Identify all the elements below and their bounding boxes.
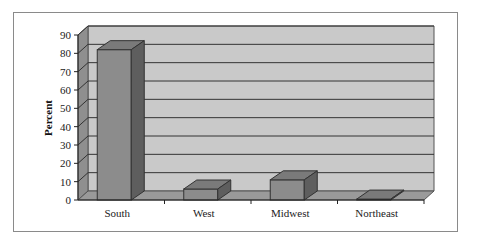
y-tick-label: 0 [66,194,72,206]
y-tick-label: 60 [60,84,72,96]
bar-south [97,41,144,200]
x-category-label: Midwest [271,207,310,219]
y-tick-label: 50 [60,102,72,114]
y-axis-label: Percent [42,100,54,136]
y-tick-label: 80 [60,47,72,59]
bar-chart: 0102030405060708090 SouthWestMidwestNort… [0,0,479,246]
y-tick-label: 70 [60,66,72,78]
x-category-label: West [193,207,215,219]
y-tick-label: 20 [60,157,72,169]
y-tick-label: 30 [60,139,72,151]
x-category-label: South [104,207,130,219]
bar-front [184,189,218,200]
y-tick-label: 10 [60,176,72,188]
x-axis-labels: SouthWestMidwestNortheast [104,207,398,219]
bar-front [97,50,131,200]
bar-front [270,180,304,200]
x-category-label: Northeast [355,207,398,219]
bar-side [131,41,144,200]
y-tick-label: 90 [60,29,72,41]
bar-midwest [270,171,317,200]
y-tick-label: 40 [60,121,72,133]
